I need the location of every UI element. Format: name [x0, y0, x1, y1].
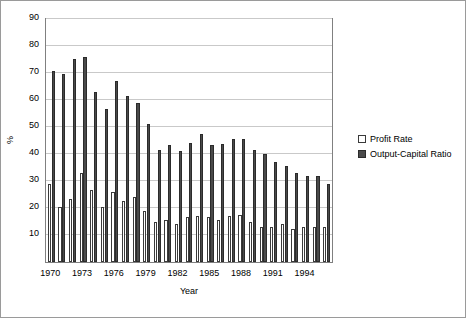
bar: [143, 211, 146, 262]
bar-group: [101, 19, 108, 262]
bar: [274, 162, 277, 262]
bar: [122, 201, 125, 262]
x-axis-tick-label: 1979: [128, 268, 164, 278]
bar-group: [133, 19, 140, 262]
bar-group: [281, 19, 288, 262]
bar-group: [175, 19, 182, 262]
bar: [221, 144, 224, 262]
x-axis-tick-label: 1976: [96, 268, 132, 278]
y-axis-label: %: [5, 136, 15, 144]
bar: [281, 224, 284, 262]
bar-group: [58, 19, 65, 262]
y-axis-tick-label: 20: [5, 202, 39, 211]
bar: [285, 166, 288, 262]
bar: [270, 227, 273, 262]
legend-item-profit-rate: Profit Rate: [358, 131, 452, 146]
bar-group: [249, 19, 256, 262]
bar: [175, 224, 178, 262]
bar: [52, 71, 55, 262]
bar: [291, 229, 294, 262]
chart-figure: % 908070605040302010 1970197319761979198…: [0, 0, 466, 318]
bar: [136, 103, 139, 262]
y-axis-tick-label: 80: [5, 40, 39, 49]
bar-group: [143, 19, 150, 262]
bar-group: [217, 19, 224, 262]
bar-group: [291, 19, 298, 262]
bar: [210, 145, 213, 262]
bar: [154, 222, 157, 263]
bar: [115, 81, 118, 262]
y-axis-tick-label: 40: [5, 148, 39, 157]
y-axis-tick-label: 10: [5, 229, 39, 238]
bar-group: [111, 19, 118, 262]
legend-swatch-profit-rate-icon: [358, 135, 366, 143]
bar: [126, 96, 129, 262]
bar-series-container: [46, 19, 332, 262]
bar: [101, 207, 104, 262]
bar-group: [48, 19, 55, 262]
bar: [168, 145, 171, 262]
bar: [90, 190, 93, 262]
bar: [217, 220, 220, 262]
x-axis-tick-label: 1973: [64, 268, 100, 278]
legend-swatch-output-capital-ratio-icon: [358, 150, 366, 158]
bar: [73, 59, 76, 262]
bar-group: [302, 19, 309, 262]
bar-group: [154, 19, 161, 262]
y-axis-tick-label: 90: [5, 13, 39, 22]
bar: [238, 215, 241, 262]
legend-label-profit-rate: Profit Rate: [370, 134, 413, 144]
x-axis-tick-label: 1988: [223, 268, 259, 278]
bar: [147, 124, 150, 262]
x-axis-tick-label: 1991: [255, 268, 291, 278]
bar-group: [69, 19, 76, 262]
bar-group: [238, 19, 245, 262]
y-axis-tick-label: 70: [5, 67, 39, 76]
bar-group: [228, 19, 235, 262]
bar: [316, 176, 319, 262]
x-axis-tick-label: 1985: [191, 268, 227, 278]
legend-item-output-capital-ratio: Output-Capital Ratio: [358, 146, 452, 161]
bar: [105, 109, 108, 262]
bar: [200, 134, 203, 262]
bar-group: [186, 19, 193, 262]
bar: [164, 220, 167, 262]
bar: [69, 199, 72, 262]
bar: [323, 227, 326, 262]
bar: [253, 150, 256, 262]
bar: [80, 173, 83, 262]
bar: [263, 154, 266, 262]
plot-area: [45, 18, 333, 263]
bar: [327, 184, 330, 262]
x-axis-label: Year: [45, 286, 333, 296]
y-axis-tick-label: 60: [5, 94, 39, 103]
bar-group: [122, 19, 129, 262]
bar: [260, 227, 263, 262]
bar: [242, 139, 245, 262]
bar-group: [90, 19, 97, 262]
x-axis-tick-label: 1982: [159, 268, 195, 278]
bar: [111, 192, 114, 262]
bar: [196, 216, 199, 262]
chart-legend: Profit Rate Output-Capital Ratio: [358, 131, 452, 161]
bar: [232, 139, 235, 262]
bar: [186, 217, 189, 262]
legend-label-output-capital-ratio: Output-Capital Ratio: [370, 149, 452, 159]
x-axis-tick-label: 1994: [287, 268, 323, 278]
bar-group: [164, 19, 171, 262]
bar: [306, 176, 309, 262]
bar: [207, 217, 210, 262]
bar: [62, 74, 65, 262]
bar: [158, 150, 161, 262]
bar: [58, 207, 61, 262]
bar: [249, 222, 252, 263]
bar-group: [207, 19, 214, 262]
y-axis-tick-label: 50: [5, 121, 39, 130]
bar-group: [313, 19, 320, 262]
bar-group: [260, 19, 267, 262]
bar: [179, 151, 182, 262]
bar-group: [196, 19, 203, 262]
bar: [133, 197, 136, 262]
bar: [189, 143, 192, 262]
bar: [295, 173, 298, 262]
